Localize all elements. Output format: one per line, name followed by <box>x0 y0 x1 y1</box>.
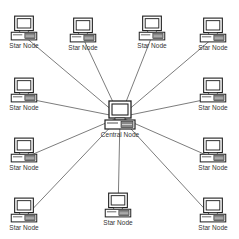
node-label: Star Node <box>198 164 228 171</box>
node-label: Star Node <box>9 104 39 111</box>
computer-icon <box>105 193 131 217</box>
star-node: Star Node <box>137 16 167 49</box>
computer-icon <box>11 16 37 40</box>
computer-icon <box>200 138 226 162</box>
node-label: Star Node <box>68 44 98 51</box>
node-label: Star Node <box>137 42 167 49</box>
star-node: Star Node <box>9 198 39 231</box>
computer-icon <box>11 78 37 102</box>
computer-icon <box>139 16 165 40</box>
star-node: Star Node <box>68 18 98 51</box>
computer-icon <box>11 138 37 162</box>
computer-icon <box>200 198 226 222</box>
computer-icon <box>200 78 226 102</box>
node-label: Star Node <box>103 219 133 226</box>
star-node: Star Node <box>9 138 39 171</box>
computer-icon <box>70 18 96 42</box>
star-node: Star Node <box>198 138 228 171</box>
node-label: Star Node <box>198 224 228 231</box>
computer-icon <box>200 18 226 42</box>
node-label: Star Node <box>198 104 228 111</box>
central-node-label: Central Node <box>101 131 140 138</box>
star-node: Star Node <box>9 16 39 49</box>
node-label: Star Node <box>9 42 39 49</box>
central-node-group: Central Node <box>101 101 140 138</box>
star-node: Star Node <box>198 198 228 231</box>
central-node: Central Node <box>101 101 140 138</box>
star-node: Star Node <box>9 78 39 111</box>
star-node: Star Node <box>198 78 228 111</box>
central-computer-icon <box>105 101 135 129</box>
node-label: Star Node <box>198 44 228 51</box>
node-label: Star Node <box>9 164 39 171</box>
node-label: Star Node <box>9 224 39 231</box>
star-topology-diagram: Star NodeStar NodeStar NodeStar NodeStar… <box>0 0 239 239</box>
star-node: Star Node <box>198 18 228 51</box>
computer-icon <box>11 198 37 222</box>
star-node: Star Node <box>103 193 133 226</box>
